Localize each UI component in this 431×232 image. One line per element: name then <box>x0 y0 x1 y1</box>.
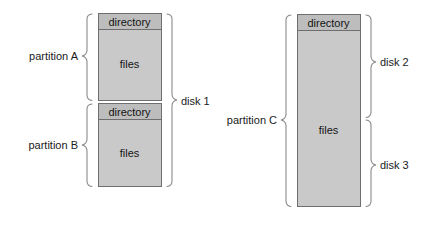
partition-a-directory-label: directory <box>98 17 161 28</box>
partition-c-directory-label: directory <box>297 18 360 29</box>
disk-2-label: disk 2 <box>380 57 409 68</box>
disk-3-label: disk 3 <box>380 160 409 171</box>
partition-a-files-label: files <box>98 59 161 70</box>
brace-partition-c <box>281 15 291 207</box>
brace-disk-3 <box>366 120 376 207</box>
partition-b-label: partition B <box>0 140 78 151</box>
partition-b-directory-label: directory <box>98 107 161 118</box>
disk-partition-diagram: directory files directory files director… <box>0 0 431 232</box>
brace-disk-1 <box>167 14 177 187</box>
brace-partition-b <box>82 104 92 187</box>
partition-c-label: partition C <box>199 115 277 126</box>
partition-c-files-label: files <box>297 125 360 136</box>
partition-a-label: partition A <box>0 51 78 62</box>
partition-c-box <box>298 15 361 207</box>
partition-b-files-label: files <box>98 148 161 159</box>
partition-c-box-outline <box>298 15 361 207</box>
brace-partition-a <box>82 14 92 101</box>
brace-disk-2 <box>366 15 376 118</box>
disk-1-label: disk 1 <box>181 96 210 107</box>
